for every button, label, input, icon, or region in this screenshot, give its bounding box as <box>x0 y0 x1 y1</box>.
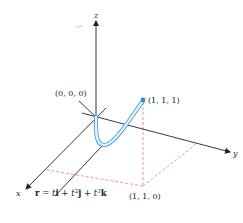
space-curve-diagram: z y x (0, 0, 0) (1, 1, 1) (1, 1, 0) r = … <box>0 0 243 223</box>
z-axis-label: z <box>93 11 99 20</box>
decorative-tick <box>76 26 82 28</box>
origin-label: (0, 0, 0) <box>55 89 87 98</box>
x-axis-label: x <box>16 189 21 198</box>
dashed-to-y-axis <box>143 144 196 186</box>
endpoint-dot <box>141 98 146 103</box>
axes <box>26 21 230 196</box>
dashed-to-x-axis <box>47 170 143 186</box>
projection-label: (1, 1, 0) <box>129 192 161 201</box>
dashed-projection-lines <box>47 102 196 186</box>
y-axis-label: y <box>232 149 238 158</box>
curve-equation: r = ti + t2j + t3k <box>35 188 108 198</box>
endpoint-label: (1, 1, 1) <box>148 96 180 105</box>
